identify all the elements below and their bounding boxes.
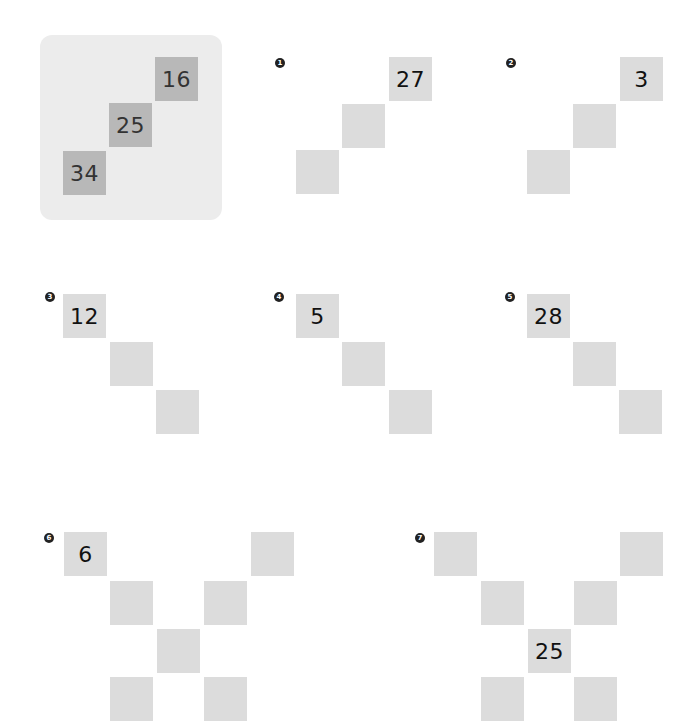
blank-square: [110, 677, 153, 721]
blank-square: [389, 390, 432, 434]
blank-square: [573, 342, 616, 386]
blank-square: [296, 150, 339, 194]
blank-square: [481, 581, 524, 625]
blank-square: [619, 390, 662, 434]
blank-square: [110, 581, 153, 625]
blank-square: [342, 104, 385, 148]
blank-square: [481, 677, 524, 721]
blank-square: [574, 581, 617, 625]
given-number-square: 6: [64, 532, 107, 576]
puzzle-number-badge: 4: [274, 292, 284, 302]
given-number-square: 25: [528, 629, 571, 673]
blank-square: [110, 342, 153, 386]
puzzle-number-badge: 5: [505, 292, 515, 302]
puzzle-number-badge: 7: [415, 533, 425, 543]
puzzle-number-badge: 1: [275, 58, 285, 68]
blank-square: [156, 390, 199, 434]
example-square: 34: [63, 151, 106, 195]
given-number-square: 3: [620, 57, 663, 101]
puzzle-number-badge: 3: [45, 292, 55, 302]
blank-square: [342, 342, 385, 386]
blank-square: [204, 581, 247, 625]
blank-square: [157, 629, 200, 673]
given-number-square: 5: [296, 294, 339, 338]
puzzle-number-badge: 2: [506, 58, 516, 68]
blank-square: [251, 532, 294, 576]
blank-square: [620, 532, 663, 576]
puzzle-number-badge: 6: [44, 533, 54, 543]
given-number-square: 28: [527, 294, 570, 338]
blank-square: [574, 677, 617, 721]
given-number-square: 12: [63, 294, 106, 338]
example-square: 16: [155, 57, 198, 101]
example-square: 25: [109, 103, 152, 147]
given-number-square: 27: [389, 57, 432, 101]
blank-square: [204, 677, 247, 721]
blank-square: [434, 532, 477, 576]
blank-square: [573, 104, 616, 148]
blank-square: [527, 150, 570, 194]
